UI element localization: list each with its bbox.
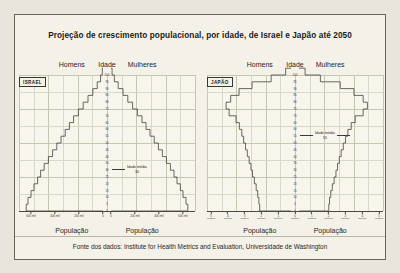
median-label: Idade média: [127, 165, 147, 169]
x-tick: 5milhões: [207, 212, 215, 221]
age-tick: 15: [293, 189, 296, 192]
x-ticks-israel: 600 mil400 mil200 mil00200 mil400 mil600…: [19, 212, 195, 224]
median-value: 30: [127, 170, 147, 174]
age-tick: 75: [293, 108, 296, 111]
age-tick: 30: [105, 169, 108, 172]
age-tick: 5: [106, 203, 108, 206]
age-tick: 100: [293, 74, 298, 77]
age-tick: 65: [293, 121, 296, 124]
age-tick: 60: [105, 128, 108, 131]
country-badge-japan: JAPÃO: [207, 77, 233, 87]
country-badge-israel: ISRAEL: [19, 77, 46, 87]
page-title: Projeção de crescimento populacional, po…: [15, 31, 385, 40]
age-tick: 30: [293, 169, 296, 172]
x-tick: 200 mil: [130, 212, 139, 218]
age-tick: 10: [293, 196, 296, 199]
x-tick: 4milhões: [358, 212, 366, 221]
label-age: Idade: [98, 61, 116, 68]
age-tick: 45: [293, 148, 296, 151]
age-tick: 45: [105, 148, 108, 151]
x-tick: 0: [102, 212, 104, 218]
age-tick: 85: [105, 94, 108, 97]
x-tick: 400 mil: [154, 212, 163, 218]
population-label-right-japan: População: [314, 227, 347, 234]
age-tick: 50: [293, 142, 296, 145]
age-tick: 70: [105, 114, 108, 117]
age-tick: 100: [105, 74, 110, 77]
age-tick: 10: [105, 196, 108, 199]
age-tick: 65: [105, 121, 108, 124]
source-note: Fonte dos dados: Institute for Health Me…: [15, 243, 385, 250]
population-label-right-israel: População: [126, 227, 159, 234]
label-women: Mulheres: [128, 61, 157, 68]
age-tick: 40: [105, 155, 108, 158]
age-axis-japan: 0510152025303540455055606570758085909510…: [288, 75, 302, 211]
population-label-left-israel: População: [55, 227, 88, 234]
age-axis-israel: 0510152025303540455055606570758085909510…: [100, 75, 114, 211]
plot-japan: 0510152025303540455055606570758085909510…: [207, 75, 383, 211]
age-tick: 5: [294, 203, 296, 206]
median-annotation-japan: Idade média 55: [315, 131, 335, 140]
population-label-left-japan: População: [243, 227, 276, 234]
x-tick: 1milhões: [274, 212, 282, 221]
plot-israel: 0510152025303540455055606570758085909510…: [19, 75, 195, 211]
x-tick: 0milhões: [291, 212, 299, 221]
age-tick: 90: [293, 87, 296, 90]
x-tick: 600 mil: [26, 212, 35, 218]
x-tick: 4milhões: [224, 212, 232, 221]
label-women: Mulheres: [316, 61, 345, 68]
age-tick: 15: [105, 189, 108, 192]
x-tick: 2milhões: [324, 212, 332, 221]
age-tick: 25: [293, 176, 296, 179]
median-value: 55: [315, 136, 335, 140]
median-label: Idade média: [315, 131, 335, 135]
median-annotation-israel: Idade média 30: [127, 165, 147, 174]
age-tick: 60: [293, 128, 296, 131]
age-tick: 20: [293, 182, 296, 185]
age-tick: 95: [293, 80, 296, 83]
age-tick: 90: [105, 87, 108, 90]
age-tick: 55: [105, 135, 108, 138]
age-tick: 75: [105, 108, 108, 111]
age-tick: 25: [105, 176, 108, 179]
age-tick: 40: [293, 155, 296, 158]
chart-figure: Projeção de crescimento populacional, po…: [14, 14, 386, 260]
age-tick: 70: [293, 114, 296, 117]
panel-japan: Homens Idade Mulheres JAPÃO 051015202530…: [207, 61, 383, 243]
x-tick: 1milhões: [308, 212, 316, 221]
label-age: Idade: [286, 61, 304, 68]
label-men: Homens: [247, 61, 273, 68]
x-tick: 5milhões: [375, 212, 383, 221]
age-tick: 95: [105, 80, 108, 83]
age-tick: 80: [293, 101, 296, 104]
label-men: Homens: [59, 61, 85, 68]
x-tick: 400 mil: [50, 212, 59, 218]
x-tick: 3milhões: [240, 212, 248, 221]
age-tick: 35: [293, 162, 296, 165]
age-tick: 80: [105, 101, 108, 104]
age-tick: 20: [105, 182, 108, 185]
age-tick: 50: [105, 142, 108, 145]
age-tick: 85: [293, 94, 296, 97]
x-tick: 200 mil: [74, 212, 83, 218]
panel-israel: Homens Idade Mulheres ISRAEL 05101520253…: [19, 61, 195, 243]
x-tick: 3milhões: [341, 212, 349, 221]
x-tick: 0: [110, 212, 112, 218]
x-tick: 600 mil: [178, 212, 187, 218]
age-tick: 35: [105, 162, 108, 165]
age-tick: 55: [293, 135, 296, 138]
footer-divider: [15, 236, 385, 237]
x-tick: 2milhões: [257, 212, 265, 221]
x-ticks-japan: 5milhões4milhões3milhões2milhões1milhões…: [207, 212, 383, 224]
